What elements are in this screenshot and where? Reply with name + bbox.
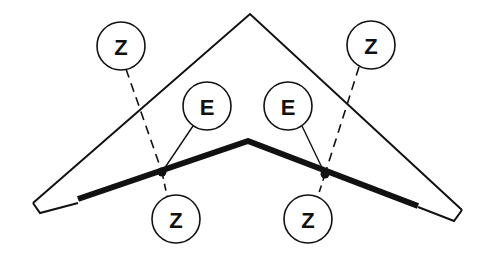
right-wingtip [418,207,462,221]
spar-line [78,141,418,206]
left-wingtip [33,203,78,213]
label-z-top-right-text: Z [364,34,377,59]
leader-z-top-left [126,69,162,172]
junction-left-dot [158,168,167,177]
label-z-bottom-left: Z [152,195,200,243]
label-z-bottom-left-text: Z [169,208,182,233]
label-z-bottom-right-text: Z [301,208,314,233]
label-z-top-left: Z [97,22,145,70]
label-e-right: E [264,82,312,130]
label-z-bottom-right: Z [284,195,332,243]
leader-z-top-right [325,67,359,174]
label-e-right-text: E [281,95,296,120]
label-z-top-left-text: Z [114,35,127,60]
label-e-left-text: E [200,95,215,120]
label-circles: Z Z E E Z Z [97,21,395,243]
label-z-top-right: Z [347,21,395,69]
junction-right-dot [321,170,330,179]
junctions [158,168,330,179]
wing-diagram: Z Z E E Z Z [0,0,487,261]
label-e-left: E [183,82,231,130]
